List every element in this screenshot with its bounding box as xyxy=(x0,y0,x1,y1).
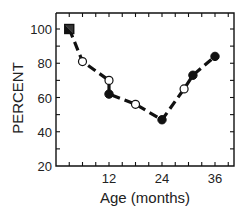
x-tick-label: 24 xyxy=(155,171,169,186)
filled-circle-marker xyxy=(211,52,219,60)
x-tick-label: 12 xyxy=(102,171,116,186)
open-circle-marker xyxy=(105,76,113,84)
y-tick-label: 20 xyxy=(38,159,52,174)
filled-circle-marker xyxy=(105,90,113,98)
y-tick-label: 100 xyxy=(30,22,52,37)
filled-circle-marker xyxy=(189,71,197,79)
chart: 20406080100122436 PERCENT Age (months) xyxy=(0,0,248,215)
x-tick-label: 36 xyxy=(208,171,222,186)
axes xyxy=(56,13,234,166)
filled-circle-marker xyxy=(158,116,166,124)
plot-frame xyxy=(56,13,234,166)
y-tick-label: 80 xyxy=(38,56,52,71)
x-axis-title: Age (months) xyxy=(100,189,190,206)
open-circle-marker xyxy=(132,100,140,108)
open-circle-marker xyxy=(79,58,87,66)
axis-ticks xyxy=(56,13,234,166)
y-tick-label: 60 xyxy=(38,91,52,106)
open-circle-marker xyxy=(180,85,188,93)
y-axis-title: PERCENT xyxy=(9,62,26,134)
y-tick-label: 40 xyxy=(38,125,52,140)
